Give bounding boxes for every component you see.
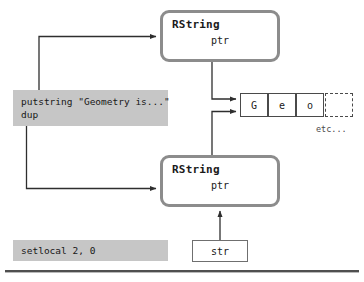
buffer-cell-continuation (325, 93, 353, 117)
variable-box-str: str (192, 240, 248, 262)
buffer-cell-1: e (268, 93, 296, 117)
buffer-cell-0: G (240, 93, 268, 117)
bottom-rule-shadow (5, 272, 359, 273)
buffer-etc-label: etc... (316, 124, 347, 134)
string-buffer: G e o etc... (0, 0, 364, 282)
diagram-canvas: RString ptr RString ptr putstring "Geome… (0, 0, 364, 282)
buffer-cell-2: o (296, 93, 324, 117)
